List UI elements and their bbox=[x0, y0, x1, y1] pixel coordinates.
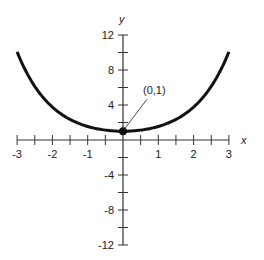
x-tick-label: 3 bbox=[226, 148, 232, 160]
y-tick-label: 12 bbox=[102, 29, 114, 41]
x-tick-label: 2 bbox=[191, 148, 197, 160]
annotation-label: (0,1) bbox=[143, 84, 166, 96]
y-tick-label: 8 bbox=[108, 64, 114, 76]
x-axis-label: x bbox=[240, 134, 247, 146]
x-tick-label: 1 bbox=[155, 148, 161, 160]
x-tick-label: -1 bbox=[83, 148, 93, 160]
axes bbox=[17, 35, 229, 245]
x-tick-label: -2 bbox=[48, 148, 58, 160]
y-tick-label: -8 bbox=[104, 204, 114, 216]
y-tick-label: -4 bbox=[104, 169, 114, 181]
x-tick-label: -3 bbox=[12, 148, 22, 160]
y-tick-label: 4 bbox=[108, 99, 114, 111]
annotation-leader-line bbox=[125, 99, 147, 128]
point-marker bbox=[119, 127, 127, 135]
y-tick-label: -12 bbox=[98, 239, 114, 251]
y-axis-label: y bbox=[118, 13, 126, 25]
cosh-chart: -3-2-11231284-4-8-12xy (0,1) bbox=[0, 0, 264, 260]
